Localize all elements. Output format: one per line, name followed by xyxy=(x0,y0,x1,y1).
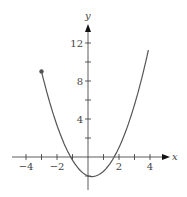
start-point-marker xyxy=(39,69,43,73)
x-tick-label: −4 xyxy=(19,161,34,172)
y-tick-label: 8 xyxy=(77,76,83,87)
x-tick-label: 2 xyxy=(116,161,122,172)
function-curve xyxy=(42,50,149,177)
y-axis-arrow-icon xyxy=(85,24,91,32)
y-tick-label: 12 xyxy=(70,38,83,49)
y-tick-labels: 4812 xyxy=(70,38,83,125)
chart-container: −4−224 4812 x y xyxy=(0,0,187,197)
y-tick-label: 4 xyxy=(77,114,83,125)
x-tick-label: 4 xyxy=(147,161,153,172)
x-tick-labels: −4−224 xyxy=(19,161,154,172)
x-tick-label: −2 xyxy=(50,161,65,172)
x-axis-label: x xyxy=(172,151,178,162)
y-axis-label: y xyxy=(84,10,91,21)
x-axis-arrow-icon xyxy=(162,154,170,160)
chart-svg: −4−224 4812 x y xyxy=(0,0,187,197)
